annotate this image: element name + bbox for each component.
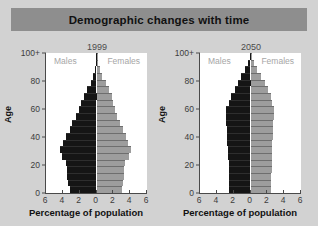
pyramid-bar: [241, 73, 250, 80]
y-tick-label: 40: [31, 132, 40, 142]
pyramid-bar: [251, 126, 274, 133]
y-tick-label: 0: [189, 188, 194, 198]
x-tick-label: 2: [76, 195, 81, 205]
x-tick-label: 6: [197, 195, 202, 205]
x-tick-label: 4: [213, 195, 218, 205]
chart-1999-x-axis-label: Percentage of population: [16, 207, 156, 218]
pyramid-bar: [97, 100, 114, 107]
pyramid-bar: [97, 73, 103, 80]
pyramid-bar: [251, 146, 273, 153]
pyramid-bar: [97, 180, 124, 187]
x-tick-mark: [112, 190, 113, 194]
y-tick-label: 60: [185, 104, 194, 114]
pyramid-bar: [97, 133, 126, 140]
pyramid-bar: [251, 80, 265, 87]
pyramid-bar: [66, 160, 96, 167]
pyramid-bar: [229, 173, 250, 180]
x-tick-mark: [129, 190, 130, 194]
chart-2050-x-axis: 6420246: [199, 195, 300, 207]
pyramid-bar: [97, 146, 132, 153]
pyramid-bar: [70, 186, 97, 193]
pyramid-bar: [251, 100, 273, 107]
pyramid-bar: [226, 106, 250, 113]
pyramid-bar: [251, 160, 272, 167]
pyramid-bar: [226, 120, 250, 127]
chart-2050-plot-area: Males Females: [199, 53, 301, 194]
y-tick-label: 0: [35, 188, 40, 198]
chart-title-banner: Demographic changes with time: [11, 8, 307, 31]
x-tick-label: 0: [93, 195, 98, 205]
pyramid-chart-1999: 1999 Age 020406080100+ Males Females 642…: [8, 38, 156, 224]
x-tick-mark: [199, 190, 200, 194]
x-tick-label: 2: [230, 195, 235, 205]
pyramid-bar: [251, 73, 262, 80]
pyramid-bar: [97, 93, 112, 100]
pyramid-bar: [63, 140, 97, 147]
pyramid-bar: [97, 113, 117, 120]
pyramid-bar: [67, 173, 96, 180]
pyramid-bar: [97, 120, 121, 127]
pyramid-bar: [60, 146, 96, 153]
chart-2050-y-axis: 020406080100+: [162, 53, 197, 193]
x-tick-mark: [283, 190, 284, 194]
x-tick-mark: [266, 190, 267, 194]
x-tick-mark: [96, 190, 97, 194]
pyramid-bar: [97, 86, 110, 93]
pyramid-bar: [97, 66, 100, 73]
chart-1999-title: 1999: [42, 42, 152, 52]
pyramid-bar: [84, 93, 97, 100]
pyramid-bar: [87, 86, 96, 93]
pyramid-bar: [229, 100, 251, 107]
pyramid-bar: [235, 86, 251, 93]
pyramid-bar: [97, 153, 130, 160]
chart-2050-x-axis-label: Percentage of population: [170, 207, 310, 218]
y-tick-label: 80: [185, 76, 194, 86]
chart-2050-legend-males: Males: [208, 56, 231, 66]
x-tick-mark: [45, 190, 46, 194]
pyramid-bar: [67, 166, 96, 173]
pyramid-bar: [251, 180, 271, 187]
pyramid-bar: [229, 160, 251, 167]
pyramid-bar: [251, 186, 271, 193]
x-tick-label: 6: [144, 195, 149, 205]
y-tick-label: 20: [31, 160, 40, 170]
pyramid-bar: [231, 93, 250, 100]
pyramid-chart-2050: 2050 Age 020406080100+ Males Females 642…: [162, 38, 310, 224]
pyramid-bar: [228, 146, 251, 153]
pyramid-bar: [229, 166, 251, 173]
x-tick-mark: [300, 190, 301, 194]
pyramid-bar: [251, 106, 275, 113]
pyramid-bar: [227, 133, 251, 140]
pyramid-bar: [97, 186, 122, 193]
x-tick-mark: [250, 190, 251, 194]
pyramid-bar: [66, 133, 96, 140]
x-tick-label: 6: [43, 195, 48, 205]
pyramid-bar: [251, 166, 272, 173]
pyramid-bar: [81, 100, 96, 107]
x-tick-label: 2: [110, 195, 115, 205]
x-tick-label: 4: [281, 195, 286, 205]
pyramid-bar: [97, 173, 125, 180]
pyramid-bar: [72, 120, 96, 127]
x-tick-label: 2: [264, 195, 269, 205]
chart-2050-legend-females: Females: [261, 56, 294, 66]
pyramid-bar: [251, 60, 254, 67]
page-title: Demographic changes with time: [69, 14, 250, 26]
y-tick-label: 100+: [21, 48, 40, 58]
pyramid-bar: [238, 80, 251, 87]
x-tick-mark: [146, 190, 147, 194]
chart-1999-legend-males: Males: [54, 56, 77, 66]
x-tick-label: 4: [59, 195, 64, 205]
pyramid-bar: [97, 80, 106, 87]
figure-canvas: Demographic changes with time 1999 Age 0…: [0, 0, 318, 226]
pyramid-bar: [70, 126, 97, 133]
x-tick-mark: [216, 190, 217, 194]
pyramid-bar: [251, 93, 271, 100]
pyramid-bar: [68, 180, 97, 187]
x-tick-mark: [233, 190, 234, 194]
pyramid-bar: [227, 126, 251, 133]
pyramid-bar: [251, 173, 271, 180]
pyramid-bar: [229, 180, 250, 187]
pyramid-bar: [97, 53, 98, 60]
chart-1999-x-axis: 6420246: [45, 195, 146, 207]
